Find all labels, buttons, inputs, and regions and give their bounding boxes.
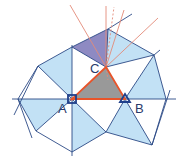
region-bottom-left: [72, 99, 106, 152]
label-a: A: [58, 102, 67, 115]
point-a-dot: [71, 98, 74, 101]
edge: [154, 50, 160, 55]
label-c: C: [90, 62, 99, 75]
geometry-diagram: A B C: [0, 0, 184, 157]
diagram-canvas: [0, 0, 184, 157]
label-b: B: [135, 102, 144, 115]
region-left-top: [38, 47, 72, 99]
